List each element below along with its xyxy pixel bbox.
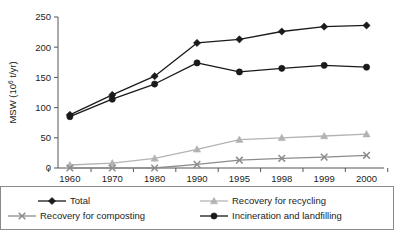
legend-marker-diamond-icon (37, 195, 67, 207)
legend-item[interactable]: Incineration and landfilling (199, 210, 387, 222)
x-tick-label: 1998 (271, 173, 292, 184)
figure: MSW (106 t/yr) 050100150200250 196019701… (0, 0, 394, 230)
legend-marker-x-icon (7, 210, 37, 222)
data-point-marker (48, 197, 55, 204)
chart-legend: TotalRecovery for recyclingRecovery for … (0, 186, 394, 230)
legend-item[interactable]: Total (7, 195, 195, 207)
data-point-marker (236, 36, 243, 43)
x-tick-label: 1995 (229, 173, 250, 184)
series-total (66, 22, 370, 119)
y-axis-title-tail: t/yr) (7, 61, 18, 80)
legend-marker-circle-icon (199, 210, 229, 222)
data-point-marker (236, 69, 242, 75)
legend-label: Total (70, 195, 90, 207)
data-point-marker (194, 60, 200, 66)
y-axis-title-text: MSW (106 t/yr) (7, 61, 18, 123)
y-axis-title: MSW (106 t/yr) (7, 61, 18, 123)
legend-marker-triangle-icon (199, 195, 229, 207)
y-tick-label: 150 (35, 72, 51, 83)
line-chart-svg: MSW (106 t/yr) 050100150200250 196019701… (0, 0, 394, 186)
data-point-marker (278, 28, 285, 35)
y-axis-tick-group: 050100150200250 (35, 11, 58, 173)
legend-label: Recovery for recycling (232, 195, 326, 207)
data-point-marker (279, 65, 285, 71)
legend-label: Incineration and landfilling (232, 210, 342, 222)
y-tick-label: 100 (35, 102, 51, 113)
data-point-marker (321, 62, 327, 68)
y-tick-label: 250 (35, 11, 51, 22)
data-point-marker (321, 23, 328, 30)
chart-plot-area: MSW (106 t/yr) 050100150200250 196019701… (0, 0, 394, 186)
axis-lines (58, 17, 384, 168)
series-layer (66, 22, 370, 171)
legend-item[interactable]: Recovery for recycling (199, 195, 387, 207)
x-tick-label: 1960 (59, 173, 80, 184)
x-tick-label: 1980 (144, 173, 165, 184)
data-point-marker (363, 22, 370, 29)
y-tick-label: 50 (40, 132, 51, 143)
y-tick-label: 200 (35, 42, 51, 53)
x-tick-label: 2000 (356, 173, 377, 184)
series-line (70, 63, 367, 117)
x-axis-tick-group: 19601970198019901995199819992000 (49, 168, 388, 184)
data-point-marker (152, 81, 158, 87)
x-tick-label: 1970 (102, 173, 123, 184)
legend-item[interactable]: Recovery for composting (7, 210, 195, 222)
legend-label: Recovery for composting (40, 210, 145, 222)
series-incineration-and-landfilling (67, 60, 370, 120)
data-point-marker (211, 212, 217, 218)
x-tick-label: 1990 (186, 173, 207, 184)
x-tick-label: 1999 (314, 173, 335, 184)
data-point-marker (363, 64, 369, 70)
